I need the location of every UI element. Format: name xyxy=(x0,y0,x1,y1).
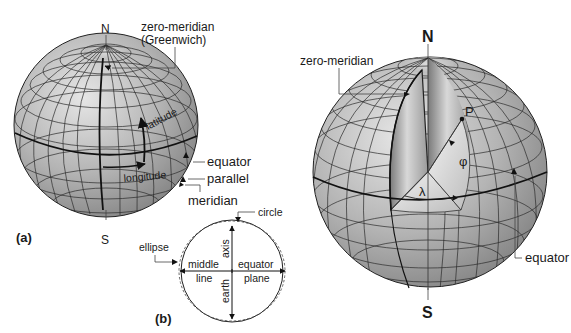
zero-meridian-label-2: (Greenwich) xyxy=(141,33,206,47)
equator-label-b: equator xyxy=(238,258,274,270)
sphere-a xyxy=(14,33,199,222)
equator-label-c: equator xyxy=(525,250,570,265)
lambda-label: λ xyxy=(419,184,426,199)
equator-label-a: equator xyxy=(207,154,252,169)
zero-meridian-label-c: zero-meridian xyxy=(300,54,373,68)
south-label-c: S xyxy=(422,304,433,321)
plane-label: plane xyxy=(244,272,270,284)
cross-section-b xyxy=(179,220,285,322)
parallel-label: parallel xyxy=(207,171,249,186)
line-label: line xyxy=(196,272,213,284)
meridian-label: meridian xyxy=(188,193,238,208)
axis-label: axis xyxy=(219,239,231,258)
middle-label: middle xyxy=(188,258,219,270)
point-p-label: P xyxy=(465,104,474,119)
geographic-coordinates-diagram: N S zero-meridian (Greenwich) latitude l… xyxy=(0,0,571,333)
ellipse-label: ellipse xyxy=(139,241,169,253)
earth-label: earth xyxy=(219,279,231,303)
sphere-c xyxy=(313,55,547,290)
north-label-c: N xyxy=(422,28,434,45)
phi-label: φ xyxy=(459,154,467,169)
panel-b-label: (b) xyxy=(155,311,172,326)
panel-a-label: (a) xyxy=(16,230,32,245)
south-label-a: S xyxy=(101,233,109,247)
point-p xyxy=(460,117,465,122)
zero-meridian-label-1: zero-meridian xyxy=(141,20,214,34)
north-label-a: N xyxy=(101,22,110,36)
circle-label: circle xyxy=(258,206,283,218)
